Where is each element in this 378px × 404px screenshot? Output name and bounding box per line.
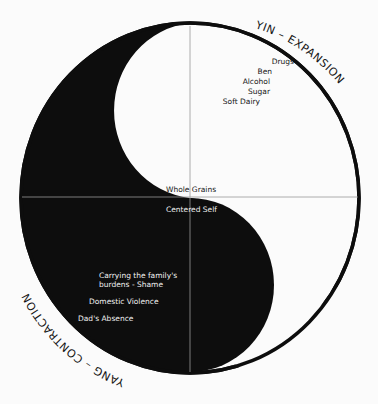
yang-item-burdens-line1: Carrying the family's bbox=[99, 271, 177, 280]
yin-item-soft-dairy: Soft Dairy bbox=[223, 97, 260, 106]
yin-item-sugar: Sugar bbox=[248, 87, 270, 96]
yin-yang-diagram: YIN – EXPANSION YANG – CONTRACTION bbox=[0, 0, 378, 404]
center-item-centered-self: Centered Self bbox=[166, 205, 217, 214]
yin-item-ben: Ben bbox=[257, 67, 272, 76]
center-item-whole-grains: Whole Grains bbox=[166, 185, 216, 194]
yang-item-dads-absence: Dad's Absence bbox=[78, 314, 133, 323]
yang-item-burdens-line2: burdens - Shame bbox=[99, 280, 163, 289]
yin-item-drugs: Drugs bbox=[272, 57, 294, 66]
yin-item-alcohol: Alcohol bbox=[243, 77, 270, 86]
yang-item-domestic-violence: Domestic Violence bbox=[89, 297, 159, 306]
